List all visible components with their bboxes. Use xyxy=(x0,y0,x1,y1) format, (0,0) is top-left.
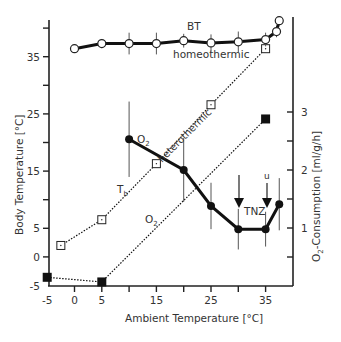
x-axis-label: Ambient Temperature [°C] xyxy=(125,312,263,324)
data-point-open-circle xyxy=(207,39,215,47)
annotation-tnz: TNZ xyxy=(243,205,265,217)
data-point-open-circle xyxy=(262,36,270,44)
x-tick-label: -5 xyxy=(42,294,52,306)
data-point-filled-circle xyxy=(234,225,242,233)
square-center-dot xyxy=(156,163,157,164)
series-o2-homeothermic- xyxy=(125,102,283,250)
square-center-dot xyxy=(60,245,61,246)
x-tick-label: 0 xyxy=(71,294,78,306)
x-tick-label: 5 xyxy=(98,294,105,306)
data-point-open-circle xyxy=(152,40,160,48)
arrow-down-icon xyxy=(234,198,244,208)
square-center-dot xyxy=(265,48,266,49)
data-point-filled-square xyxy=(43,273,52,282)
annotation-o2-hetero: O2 xyxy=(145,213,158,228)
data-point-filled-circle xyxy=(275,200,283,208)
series-line xyxy=(61,49,266,246)
data-point-filled-square xyxy=(261,114,270,123)
y-left-tick-label: 5 xyxy=(33,222,40,234)
annotation-tb: Tb xyxy=(116,183,128,198)
y-left-tick-label: 25 xyxy=(27,108,40,120)
data-point-open-circle xyxy=(98,40,106,48)
y-right-tick-label: 2 xyxy=(301,164,308,176)
annotation-bt: BT xyxy=(187,20,201,32)
y-axis-left-label: Body Temperature [°C] xyxy=(13,115,25,235)
annotation-homeothermic: homeothermic xyxy=(173,48,250,60)
x-tick-label: 25 xyxy=(204,294,217,306)
y-axis-right-label: O2-Consumption [ml/g/h] xyxy=(310,131,325,262)
y-left-tick-label: -5 xyxy=(30,280,40,292)
arrow-upper-critical: u xyxy=(262,171,272,208)
data-point-filled-circle xyxy=(207,202,215,210)
data-point-open-circle xyxy=(180,37,188,45)
y-left-tick-label: 35 xyxy=(27,51,40,63)
data-point-open-circle xyxy=(125,40,133,48)
data-point-open-circle xyxy=(234,38,242,46)
data-point-open-circle xyxy=(71,45,79,53)
data-point-filled-circle xyxy=(125,135,133,143)
data-point-open-circle xyxy=(273,28,281,36)
y-left-tick-label: 0 xyxy=(33,251,40,263)
square-center-dot xyxy=(101,219,102,220)
y-right-tick-label: 3 xyxy=(301,106,308,118)
y-left-tick-label: 15 xyxy=(27,165,40,177)
data-point-open-circle xyxy=(275,17,283,25)
data-point-filled-square xyxy=(97,277,106,286)
y-right-tick-label: 1 xyxy=(301,222,308,234)
arrow-lower-critical xyxy=(234,175,244,208)
data-point-filled-circle xyxy=(262,225,270,233)
series-line xyxy=(47,119,265,282)
chart: -505152535-505152535123 BT homeothermic … xyxy=(0,0,341,342)
data-point-filled-circle xyxy=(180,166,188,174)
square-center-dot xyxy=(210,104,211,105)
arrow-u-label: u xyxy=(264,171,270,181)
x-tick-label: 35 xyxy=(259,294,272,306)
x-tick-label: 15 xyxy=(150,294,163,306)
annotation-heterothermic: heterothermic xyxy=(156,106,214,164)
